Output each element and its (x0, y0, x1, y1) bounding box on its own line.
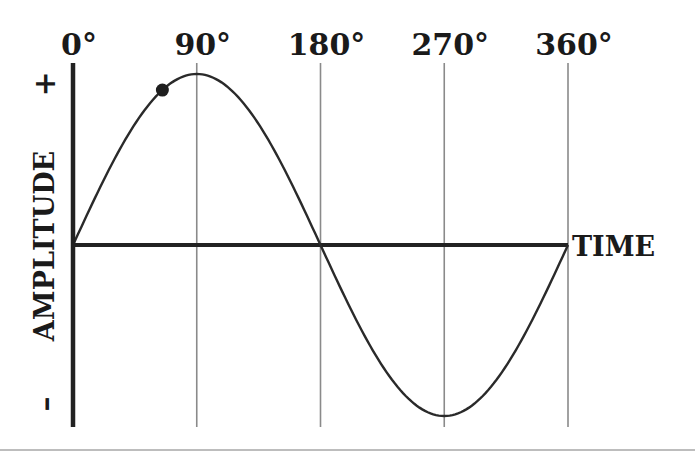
curve-marker-dot (156, 84, 169, 97)
x-tick-label: 0° (61, 27, 97, 62)
y-axis-label-group: AMPLITUDE + – (27, 71, 62, 411)
x-tick-label: 180° (288, 27, 366, 62)
x-tick-label: 90° (174, 27, 231, 62)
sine-wave-diagram: 0°90°180°270°360° TIME AMPLITUDE + – (0, 0, 695, 454)
x-axis-label: TIME (572, 231, 655, 262)
y-axis-label: AMPLITUDE (29, 151, 60, 342)
x-tick-label: 360° (535, 27, 613, 62)
y-negative-sign: – (27, 397, 62, 412)
x-tick-label: 270° (411, 27, 489, 62)
x-tick-labels: 0°90°180°270°360° (61, 27, 613, 62)
y-positive-sign: + (27, 71, 62, 96)
